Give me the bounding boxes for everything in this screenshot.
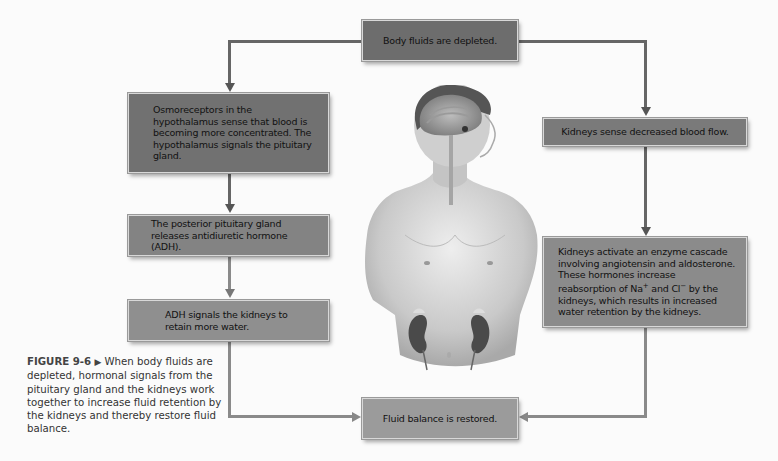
connector-pituitary-to-adh <box>228 256 231 290</box>
box-fluid-balance-restored-text: Fluid balance is restored. <box>383 413 497 425</box>
box-adh-signals-text: ADH signals the kidneys to retain more w… <box>143 309 314 332</box>
arrow-to-osmoreceptors-icon <box>225 83 235 92</box>
human-torso-illustration <box>355 85 550 375</box>
box-posterior-pituitary-text: The posterior pituitary gland releases a… <box>143 218 314 253</box>
box-kidneys-activate: Kidneys activate an enzyme cascade invol… <box>543 237 747 327</box>
box-body-fluids-depleted-text: Body fluids are depleted. <box>383 35 497 47</box>
connector-adh-to-end-h <box>228 415 354 418</box>
arrow-to-adh-icon <box>225 289 235 298</box>
background-bleed-text <box>100 4 360 18</box>
caption-text: When body fluids are depleted, hormonal … <box>27 356 221 434</box>
connector-start-right-h <box>518 40 647 43</box>
box-posterior-pituitary: The posterior pituitary gland releases a… <box>128 215 329 256</box>
box-kidneys-sense-text: Kidneys sense decreased blood flow. <box>561 126 728 138</box>
connector-start-left-h <box>228 40 362 43</box>
connector-osmo-to-pituitary <box>228 172 231 205</box>
connector-start-right-v <box>644 40 647 108</box>
box-adh-signals: ADH signals the kidneys to retain more w… <box>128 300 329 341</box>
box-kidneys-activate-text: Kidneys activate an enzyme cascade invol… <box>558 246 736 317</box>
connector-kidneys-sense-to-cascade <box>644 145 647 228</box>
connector-cascade-to-end-v <box>644 327 647 418</box>
connector-start-left-v <box>228 40 231 84</box>
arrow-left-to-end-icon <box>352 412 361 422</box>
arrow-to-kidneys-sense-icon <box>641 107 651 116</box>
connector-cascade-to-end-h <box>528 415 647 418</box>
arrow-to-pituitary-icon <box>225 204 235 213</box>
figure-label: FIGURE 9-6 <box>27 356 91 367</box>
cascade-text-part2: and Cl <box>649 283 681 294</box>
arrow-to-cascade-icon <box>641 227 651 236</box>
box-osmoreceptors-text: Osmoreceptors in the hypothalamus sense … <box>143 104 314 162</box>
box-kidneys-sense: Kidneys sense decreased blood flow. <box>543 118 747 146</box>
box-fluid-balance-restored: Fluid balance is restored. <box>362 398 518 439</box>
arrow-right-to-end-icon <box>519 412 528 422</box>
box-body-fluids-depleted: Body fluids are depleted. <box>362 20 518 61</box>
box-osmoreceptors: Osmoreceptors in the hypothalamus sense … <box>128 93 329 173</box>
figure-caption: FIGURE 9-6 ▶ When body fluids are deplet… <box>27 355 237 436</box>
